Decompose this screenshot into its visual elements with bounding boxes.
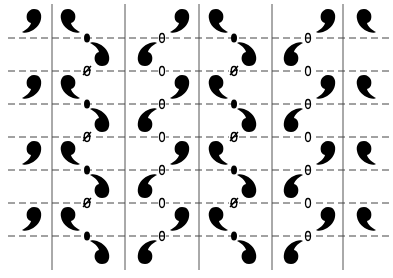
twofold-axis-dot bbox=[84, 166, 90, 175]
motif-col4-lower bbox=[237, 108, 256, 132]
motif-col2-lower bbox=[90, 108, 109, 132]
pattern-diagram bbox=[0, 0, 393, 278]
motif-col6-upper bbox=[357, 141, 376, 165]
motif-col3-upper bbox=[170, 75, 189, 99]
motif-col2-lower bbox=[90, 174, 109, 198]
motif-col2-lower bbox=[90, 240, 109, 264]
motif-col4-lower bbox=[237, 174, 256, 198]
motif-col6-upper bbox=[357, 9, 376, 33]
motif-col3-lower bbox=[138, 174, 157, 198]
motif-col5-lower bbox=[284, 174, 303, 198]
twofold-axis-dot bbox=[84, 100, 90, 109]
twofold-axis-dot bbox=[84, 34, 90, 43]
motif-col5-lower bbox=[284, 108, 303, 132]
motif-col5-lower bbox=[284, 42, 303, 66]
motif-col3-lower bbox=[138, 108, 157, 132]
twofold-axis-dot bbox=[231, 34, 237, 43]
motif-col1-upper bbox=[22, 9, 41, 33]
motif-col2-upper bbox=[61, 75, 80, 99]
motif-col2-lower bbox=[90, 42, 109, 66]
twofold-axis-dot bbox=[231, 232, 237, 241]
twofold-axis-dot bbox=[84, 232, 90, 241]
motif-col6-upper bbox=[357, 207, 376, 231]
motif-col5-upper bbox=[316, 9, 335, 33]
motif-col6-upper bbox=[357, 75, 376, 99]
twofold-axis-dot bbox=[231, 166, 237, 175]
grid-lines bbox=[8, 4, 390, 270]
motif-col2-upper bbox=[61, 207, 80, 231]
motif-col1-upper bbox=[22, 141, 41, 165]
motif-col4-upper bbox=[209, 207, 228, 231]
motif-col5-upper bbox=[316, 207, 335, 231]
motif-col3-upper bbox=[170, 207, 189, 231]
motif-col4-upper bbox=[209, 141, 228, 165]
pattern-canvas bbox=[0, 0, 393, 278]
motif-col3-upper bbox=[170, 9, 189, 33]
motif-col4-lower bbox=[237, 42, 256, 66]
motif-col2-upper bbox=[61, 9, 80, 33]
motif-col5-upper bbox=[316, 75, 335, 99]
motif-col1-upper bbox=[22, 207, 41, 231]
motif-col3-lower bbox=[138, 42, 157, 66]
motif-col1-upper bbox=[22, 75, 41, 99]
motif-col4-lower bbox=[237, 240, 256, 264]
motif-col3-lower bbox=[138, 240, 157, 264]
motif-col4-upper bbox=[209, 9, 228, 33]
motif-col2-upper bbox=[61, 141, 80, 165]
motif-col4-upper bbox=[209, 75, 228, 99]
twofold-axis-dot bbox=[231, 100, 237, 109]
motif-col5-lower bbox=[284, 240, 303, 264]
motif-col5-upper bbox=[316, 141, 335, 165]
motif-col3-upper bbox=[170, 141, 189, 165]
